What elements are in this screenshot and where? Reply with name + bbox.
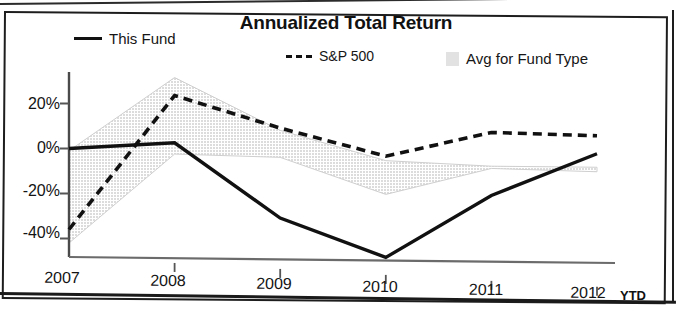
x-tick-label-2008: 2008 (138, 272, 198, 291)
x-tick-label-2010: 2010 (350, 278, 410, 297)
x-tick-label-2012: 2012 (558, 284, 618, 303)
series-band-avg-for-fund-type (69, 78, 597, 243)
chart-figure: Annualized Total Return This Fund S&P 50… (0, 0, 676, 316)
plot-area: 20% 0% -20% -40% 2007 2008 2009 2010 201… (0, 0, 676, 316)
chart-svg (0, 0, 676, 316)
x-tick-label-2011: 2011 (456, 281, 516, 300)
y-tick-label-neg40: -40% (4, 224, 60, 242)
y-tick-label-0: 0% (4, 139, 60, 157)
y-tick-label-20: 20% (4, 95, 60, 113)
x-tick-label-2007: 2007 (32, 269, 92, 288)
y-tick-label-neg20: -20% (4, 182, 60, 200)
x-tick-label-2009: 2009 (244, 275, 304, 294)
ytd-note: YTD (620, 288, 646, 303)
